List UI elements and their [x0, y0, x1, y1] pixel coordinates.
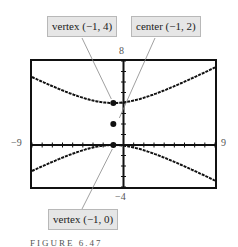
vertex-bottom-point — [110, 142, 116, 148]
vertex-top-label: vertex (−1, 4) — [47, 16, 117, 37]
vertex-bottom-label: vertex (−1, 0) — [48, 209, 118, 230]
chart-canvas — [0, 0, 238, 247]
vertex-top-point — [110, 100, 116, 106]
y-max-label: 8 — [119, 45, 124, 57]
x-max-label: 9 — [221, 137, 226, 149]
center-point — [110, 121, 116, 127]
x-min-label: −9 — [11, 137, 22, 149]
figure-caption: FIGURE 6.47 — [30, 238, 103, 247]
y-min-label: −4 — [115, 191, 126, 203]
center-label: center (−1, 2) — [131, 16, 201, 37]
